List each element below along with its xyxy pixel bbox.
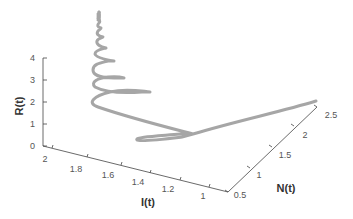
z-tick-3: 3: [30, 75, 35, 85]
z-tick-1: 1: [30, 119, 35, 129]
z-tick-2: 2: [30, 97, 35, 107]
z-axis-label: R(t): [13, 96, 25, 115]
x-tick-1.6: 1.6: [102, 170, 115, 180]
x-tick-1: 1: [200, 191, 205, 201]
x-axis: 2 1.8 1.6 1.4 1.2 1 I(t): [42, 145, 228, 208]
z-tick-0: 0: [30, 141, 35, 151]
x-axis-label: I(t): [141, 196, 155, 208]
y-tick-2: 2: [302, 130, 307, 140]
x-tick-1.8: 1.8: [70, 164, 83, 174]
y-tick-0.5: 0.5: [234, 190, 247, 200]
x-tick-2: 2: [42, 154, 47, 164]
y-tick-1.5: 1.5: [279, 150, 292, 160]
x-tick-1.2: 1.2: [162, 184, 175, 194]
y-axis-label: N(t): [277, 182, 296, 194]
y-tick-1: 1: [256, 170, 261, 180]
z-tick-4: 4: [30, 53, 35, 63]
3d-line-chart: 0 1 2 3 4 R(t) 2 1.8 1.6 1.4 1.2 1 I(t) …: [0, 0, 353, 219]
trajectory-series: [92, 12, 316, 141]
x-tick-1.4: 1.4: [132, 177, 145, 187]
y-tick-2.5: 2.5: [325, 110, 338, 120]
z-axis: 0 1 2 3 4 R(t): [13, 53, 47, 151]
